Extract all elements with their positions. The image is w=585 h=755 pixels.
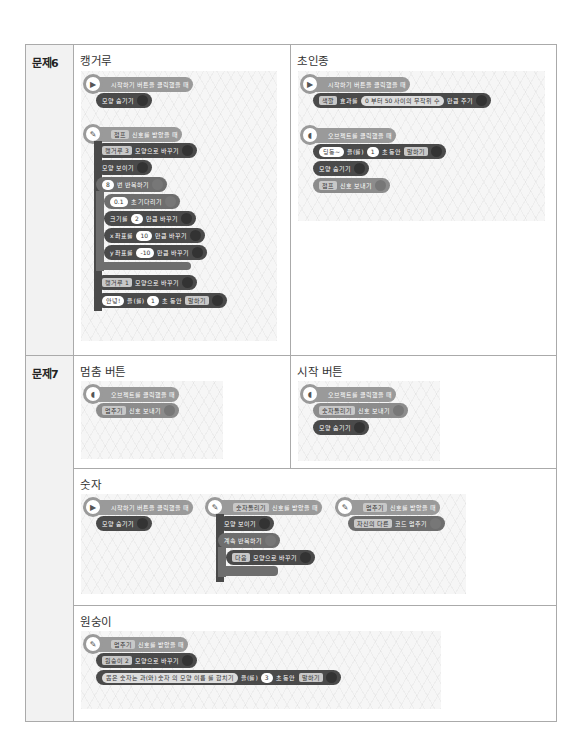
y-input[interactable]: -10	[136, 248, 154, 258]
switch-shape-block[interactable]: 원숭이 2모양으로 바꾸기	[96, 653, 197, 668]
code-canvas: 시작하기 버튼을 클릭했을 때 ▶ 모양 숨기기 점프신호를 받았을 때 ✎ 캥…	[81, 71, 277, 341]
mouse-icon: ◖	[83, 384, 103, 404]
say-text-input[interactable]: 안녕!	[102, 296, 124, 306]
send-signal-block[interactable]: 멈추기신호 보내기	[96, 403, 179, 418]
signal-hat-block[interactable]: 멈추기신호를 받았을 때	[89, 637, 188, 652]
block-text: x 좌표를	[110, 231, 133, 240]
doorbell-cell: 초인종 시작하기 버튼을 클릭했을 때 ▶ 색깔효과를0 부터 50 사이의 무…	[291, 45, 556, 356]
repeat-count-input[interactable]: 8	[102, 180, 114, 190]
block-text: 모양 숨기기	[319, 423, 351, 432]
stop-target-dropdown[interactable]: 자신의 다른	[354, 519, 392, 528]
repeat-block[interactable]: 8번 반복하기	[96, 177, 167, 192]
property-dropdown[interactable]: 모양 이름	[180, 674, 206, 681]
shape-dropdown[interactable]: 다음	[232, 553, 250, 562]
switch-shape-block[interactable]: 다음모양으로 바꾸기	[226, 550, 315, 565]
repeat-spine	[96, 191, 104, 271]
block-text: 모양으로 바꾸기	[253, 553, 297, 562]
show-block[interactable]: 모양 보이기	[218, 516, 274, 531]
looks-icon	[431, 146, 442, 157]
play-icon: ▶	[83, 497, 103, 517]
signal-dropdown[interactable]: 숫자돌리기	[319, 406, 355, 415]
block-text: 모양으로 바꾸기	[135, 146, 179, 155]
seconds-input[interactable]: 1	[367, 147, 379, 157]
send-signal-block[interactable]: 숫자돌리기신호 보내기	[313, 403, 408, 418]
say-text-input[interactable]: 딩동~	[319, 147, 344, 157]
join-block[interactable]: 뽑은 숫자는 과(와) 숫자 의 모양 이름 를 합치기	[102, 673, 238, 683]
forever-block[interactable]: 계속 반복하기	[218, 533, 280, 548]
hide-block[interactable]: 모양 숨기기	[96, 516, 152, 531]
seconds-input[interactable]: 3	[261, 673, 273, 683]
signal-icon: ✎	[335, 497, 355, 517]
show-block[interactable]: 모양 보이기	[96, 160, 152, 175]
switch-shape-block[interactable]: 캥거루 3모양으로 바꾸기	[96, 143, 197, 158]
play-icon: ▶	[83, 74, 103, 94]
code-canvas: 시작하기 버튼을 클릭했을 때 ▶ 색깔효과를0 부터 50 사이의 무작위 수…	[298, 71, 545, 221]
block-text: 초 동안	[162, 296, 182, 305]
signal-hat-block[interactable]: 멈추기신호를 받았을 때	[341, 500, 440, 515]
looks-icon	[137, 95, 148, 106]
start-hat-block[interactable]: 시작하기 버튼을 클릭했을 때	[89, 500, 193, 515]
shape-dropdown[interactable]: 캥거루 3	[102, 146, 132, 155]
send-signal-block[interactable]: 점프신호 보내기	[313, 178, 390, 193]
problem-6-label: 문제6	[26, 45, 74, 356]
signal-dropdown[interactable]: 점프	[319, 181, 337, 190]
say-block[interactable]: 안녕!을(를)1초 동안말하기	[96, 293, 227, 308]
repeat-end	[96, 262, 191, 270]
speech-type-dropdown[interactable]: 말하기	[404, 147, 428, 156]
mouse-icon: ◖	[300, 125, 320, 145]
object-dropdown[interactable]: 숫자	[158, 674, 170, 681]
signal-icon	[393, 405, 404, 416]
signal-icon	[375, 180, 386, 191]
change-x-block[interactable]: x 좌표를10만큼 바꾸기	[104, 228, 205, 243]
signal-dropdown[interactable]: 멈추기	[363, 503, 387, 512]
looks-icon	[326, 672, 337, 683]
size-input[interactable]: 2	[131, 214, 143, 224]
stop-code-block[interactable]: 자신의 다른코드 멈추기	[348, 516, 445, 531]
join-text-input[interactable]: 뽑은 숫자는	[106, 674, 138, 681]
speech-type-dropdown[interactable]: 말하기	[299, 673, 323, 682]
block-text: 시작하기 버튼을 클릭했을 때	[111, 80, 189, 89]
shape-dropdown[interactable]: 캥거루 1	[102, 278, 132, 287]
say-block[interactable]: 딩동~을(를)1초 동안말하기	[313, 144, 446, 159]
seconds-input[interactable]: 1	[147, 296, 159, 306]
signal-dropdown[interactable]: 숫자돌리기	[233, 503, 269, 512]
looks-icon	[300, 552, 311, 563]
start-hat-block[interactable]: 시작하기 버튼을 클릭했을 때	[89, 77, 193, 92]
shape-dropdown[interactable]: 원숭이 2	[102, 656, 132, 665]
random-block[interactable]: 0 부터 50 사이의 무작위 수	[361, 96, 444, 106]
block-text: 만큼 바꾸기	[157, 248, 189, 257]
code-canvas: 오브젝트를 클릭했을 때 ◖ 멈추기신호 보내기	[81, 381, 223, 459]
to-input[interactable]: 50	[385, 97, 393, 104]
x-input[interactable]: 10	[136, 231, 152, 241]
mouse-icon: ◖	[300, 384, 320, 404]
block-text: 모양 숨기기	[102, 519, 134, 528]
effect-dropdown[interactable]: 색깔	[319, 96, 337, 105]
change-y-block[interactable]: y 좌표를-10만큼 바꾸기	[104, 245, 207, 260]
looks-icon	[259, 518, 270, 529]
hide-block[interactable]: 모양 숨기기	[313, 420, 369, 435]
speech-type-dropdown[interactable]: 말하기	[185, 296, 209, 305]
block-text: 크기를	[110, 214, 128, 223]
hide-block[interactable]: 모양 숨기기	[96, 93, 152, 108]
cell-title: 원숭이	[80, 613, 112, 629]
motion-icon	[190, 230, 201, 241]
signal-dropdown[interactable]: 멈추기	[111, 640, 135, 649]
number-cell: 숫자 시작하기 버튼을 클릭했을 때 ▶ 모양 숨기기 숫자돌리기신호를 받았을…	[74, 469, 556, 606]
from-input[interactable]: 0	[365, 97, 369, 104]
signal-hat-block[interactable]: 숫자돌리기신호를 받았을 때	[211, 500, 322, 515]
wait-seconds-input[interactable]: 0.1	[110, 197, 128, 207]
signal-dropdown[interactable]: 점프	[111, 130, 129, 139]
switch-shape-block-2[interactable]: 캥거루 1모양으로 바꾸기	[96, 275, 197, 290]
say-block[interactable]: 뽑은 숫자는 과(와) 숫자 의 모양 이름 를 합치기 을(를) 3 초 동안…	[96, 670, 341, 685]
start-hat-block[interactable]: 시작하기 버튼을 클릭했을 때	[306, 77, 410, 92]
looks-icon	[182, 655, 193, 666]
signal-dropdown[interactable]: 멈추기	[102, 406, 126, 415]
wait-block[interactable]: 0.1초 기다리기	[104, 194, 180, 209]
change-size-block[interactable]: 크기를2만큼 바꾸기	[104, 211, 196, 226]
looks-icon	[212, 295, 223, 306]
hide-block[interactable]: 모양 숨기기	[313, 161, 369, 176]
block-text: 모양 숨기기	[319, 164, 351, 173]
worksheet-table: 문제6 캥거루 시작하기 버튼을 클릭했을 때 ▶ 모양 숨기기 점프신호를 받…	[25, 44, 557, 722]
effect-block[interactable]: 색깔효과를0 부터 50 사이의 무작위 수만큼 주기	[313, 93, 491, 108]
block-text: 신호 보내기	[340, 181, 372, 190]
